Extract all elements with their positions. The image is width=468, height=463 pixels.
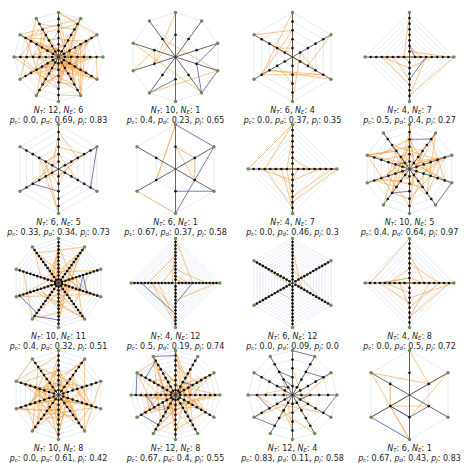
- ring-edge: [176, 242, 217, 283]
- random-edge: [156, 125, 175, 181]
- ring-edge: [59, 19, 78, 24]
- ring-edge: [269, 297, 293, 311]
- ne-value: 8: [427, 332, 432, 341]
- inner-node: [283, 60, 286, 63]
- inner-node: [57, 37, 60, 40]
- inner-node: [291, 295, 294, 298]
- ring-edge: [410, 351, 448, 373]
- pc-value: 0.83: [255, 454, 273, 463]
- inner-node: [44, 56, 47, 59]
- inner-node: [57, 197, 60, 200]
- outer-node: [101, 55, 104, 58]
- inner-node: [184, 411, 187, 414]
- ring-edge: [410, 132, 432, 139]
- ring-edge: [85, 297, 101, 319]
- graph-panel: NT: 10, NE: 8 pc: 0.0, pd: 0.61, pj: 0.4…: [0, 346, 117, 461]
- inner-node: [174, 275, 177, 278]
- inner-node: [35, 43, 38, 46]
- ring-edge: [410, 417, 448, 439]
- ring-edge: [59, 319, 85, 327]
- inner-node: [309, 394, 312, 397]
- inner-node: [426, 192, 429, 195]
- inner-node: [57, 311, 60, 314]
- pc-symbol: pc: [241, 454, 249, 463]
- inner-node: [389, 405, 392, 408]
- ring-edge: [293, 169, 321, 197]
- outer-node: [252, 371, 255, 374]
- inner-node: [46, 62, 49, 65]
- inner-node: [184, 394, 187, 397]
- inner-node: [408, 131, 411, 134]
- inner-node: [34, 386, 37, 389]
- outer-node: [329, 371, 332, 374]
- inner-node: [29, 385, 32, 388]
- ring-edge: [59, 239, 85, 247]
- inner-node: [55, 279, 58, 282]
- inner-node: [37, 366, 40, 369]
- ne-value: 8: [78, 444, 83, 453]
- inner-node: [70, 264, 73, 267]
- ring-edge: [189, 64, 197, 75]
- inner-node: [144, 376, 147, 379]
- inner-node: [208, 374, 211, 377]
- outer-node: [291, 237, 294, 240]
- ne-symbol: NE: [295, 106, 304, 115]
- ring-edge: [33, 184, 59, 199]
- inner-node: [62, 395, 65, 398]
- inner-node: [415, 165, 418, 168]
- inner-node: [149, 379, 152, 382]
- outer-node: [212, 371, 215, 374]
- inner-node: [327, 302, 330, 305]
- inner-node: [215, 282, 218, 285]
- inner-node: [314, 407, 317, 410]
- outer-node: [95, 33, 98, 36]
- inner-node: [35, 252, 38, 255]
- inner-node: [47, 278, 50, 281]
- ring-edge: [59, 351, 85, 359]
- inner-node: [212, 282, 215, 285]
- outer-node: [31, 357, 34, 360]
- inner-node: [408, 371, 411, 374]
- inner-node: [63, 59, 66, 62]
- inner-node: [62, 276, 65, 279]
- outer-node: [129, 281, 132, 284]
- ring-edge: [59, 431, 85, 439]
- outer-node: [382, 131, 385, 134]
- inner-node: [92, 270, 95, 273]
- inner-node: [184, 282, 187, 285]
- inner-node: [57, 300, 60, 303]
- inner-node: [57, 245, 60, 248]
- inner-node: [291, 179, 294, 182]
- ring-edge: [254, 417, 270, 433]
- inner-node: [187, 372, 190, 375]
- inner-node: [309, 424, 312, 427]
- ring-edge: [262, 413, 275, 426]
- cross-edge: [323, 395, 337, 413]
- inner-node: [66, 406, 69, 409]
- nt-symbol: NT: [387, 106, 396, 115]
- inner-node: [291, 65, 294, 68]
- ring-edge: [410, 57, 432, 79]
- inner-node: [182, 407, 185, 410]
- outer-node: [408, 326, 411, 329]
- inner-node: [386, 138, 389, 141]
- inner-node: [57, 319, 60, 322]
- inner-node: [443, 282, 446, 285]
- inner-node: [174, 399, 177, 402]
- nt-value: 6: [285, 106, 290, 115]
- ring-edge: [137, 357, 153, 373]
- random-edge: [392, 145, 438, 160]
- inner-node: [53, 288, 56, 291]
- outer-node: [99, 407, 102, 410]
- inner-node: [179, 385, 182, 388]
- inner-node: [408, 39, 411, 42]
- inner-node: [174, 404, 177, 407]
- inner-node: [291, 151, 294, 154]
- outer-node: [95, 78, 98, 81]
- inner-node: [418, 282, 421, 285]
- cross-edge: [176, 125, 214, 147]
- outer-node: [31, 317, 34, 320]
- ring-edge: [195, 361, 209, 375]
- ring-edge: [210, 395, 215, 415]
- inner-node: [81, 315, 84, 318]
